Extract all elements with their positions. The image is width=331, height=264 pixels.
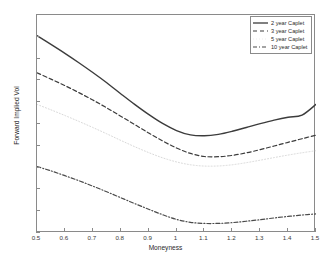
x-tick-mark — [120, 228, 121, 232]
y-tick-mark — [36, 188, 40, 189]
legend-item-label: 3 year Caplet — [271, 27, 304, 35]
legend-item[interactable]: 5 year Caplet — [253, 35, 309, 43]
x-tick-mark — [64, 228, 65, 232]
y-tick-mark — [36, 167, 40, 168]
x-tick-mark — [148, 228, 149, 232]
y-tick-mark — [36, 123, 40, 124]
legend-line-sample-dashed — [253, 27, 268, 35]
x-tick-label: 0.7 — [87, 234, 96, 241]
x-tick-label: 0.6 — [60, 234, 69, 241]
legend-line-sample-dotted — [253, 35, 268, 43]
y-axis-label: Forward Implied Vol — [13, 56, 20, 176]
y-tick-mark — [36, 79, 40, 80]
x-tick-mark — [315, 228, 316, 232]
x-tick-mark — [92, 228, 93, 232]
legend-item[interactable]: 2 year Caplet — [253, 19, 309, 27]
series-line — [37, 73, 316, 157]
chart-figure: 0.120.140.160.180.20.220.240.260.280.30.… — [0, 0, 331, 264]
x-tick-mark — [203, 228, 204, 232]
x-tick-mark — [287, 228, 288, 232]
x-tick-label: 0.9 — [143, 234, 152, 241]
legend-item[interactable]: 10 year Caplet — [253, 43, 309, 51]
x-tick-mark — [231, 228, 232, 232]
y-tick-mark — [36, 36, 40, 37]
chart-legend: 2 year Caplet 3 year Caplet 5 year Caple… — [250, 16, 312, 54]
y-tick-mark — [36, 210, 40, 211]
x-tick-label: 1.3 — [255, 234, 264, 241]
x-tick-label: 0.8 — [115, 234, 124, 241]
x-tick-mark — [176, 228, 177, 232]
y-tick-mark — [36, 101, 40, 102]
legend-line-sample-dashdot — [253, 43, 268, 51]
x-tick-label: 1 — [174, 234, 177, 241]
y-tick-mark — [36, 232, 40, 233]
x-tick-label: 1.5 — [311, 234, 320, 241]
legend-line-sample-solid — [253, 19, 268, 27]
x-tick-label: 1.1 — [199, 234, 208, 241]
legend-item-label: 2 year Caplet — [271, 19, 304, 27]
y-tick-mark — [36, 145, 40, 146]
legend-item-label: 5 year Caplet — [271, 35, 304, 43]
legend-item[interactable]: 3 year Caplet — [253, 27, 309, 35]
x-tick-label: 0.5 — [32, 234, 41, 241]
x-axis-label: Moneyness — [0, 244, 331, 251]
x-tick-label: 1.4 — [283, 234, 292, 241]
series-line — [37, 104, 316, 166]
y-tick-mark — [36, 58, 40, 59]
x-tick-mark — [259, 228, 260, 232]
x-tick-mark — [36, 228, 37, 232]
legend-item-label: 10 year Caplet — [271, 43, 307, 51]
series-line — [37, 167, 316, 224]
y-tick-mark — [36, 14, 40, 15]
x-tick-label: 1.2 — [227, 234, 236, 241]
